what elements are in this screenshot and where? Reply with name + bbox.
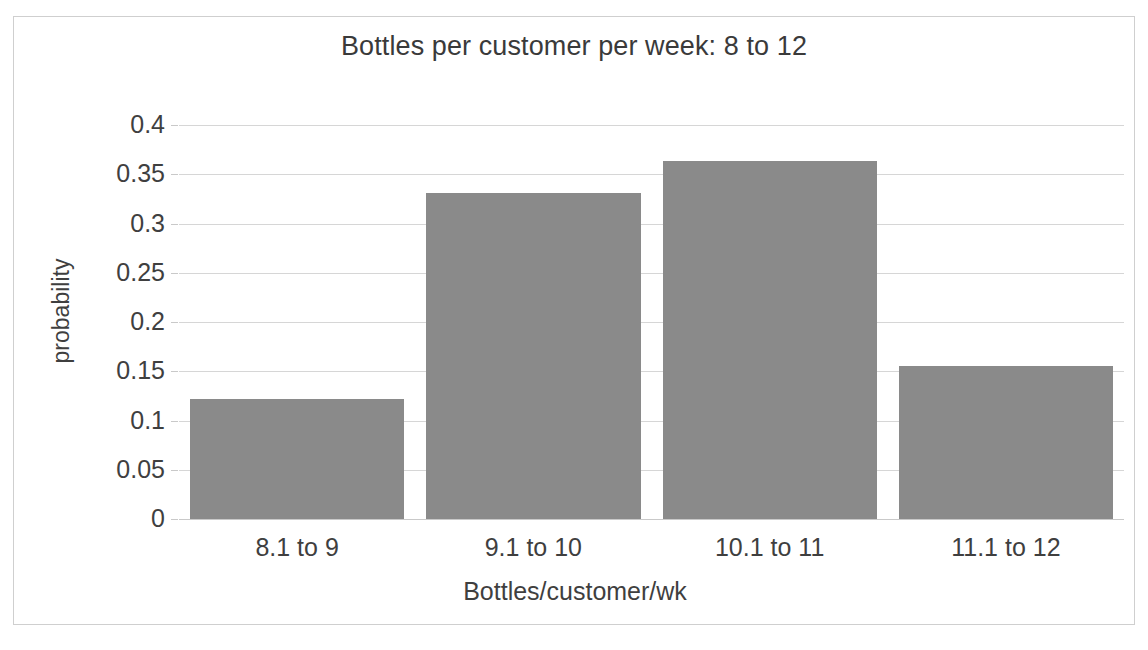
y-tick-mark — [171, 322, 178, 323]
x-tick-label: 11.1 to 12 — [888, 533, 1124, 562]
bar-4 — [899, 366, 1113, 519]
bar-3 — [663, 161, 877, 519]
x-tick-label: 10.1 to 11 — [652, 533, 888, 562]
y-tick-mark — [171, 174, 178, 175]
gridline — [179, 174, 1124, 175]
y-axis-title: probability — [48, 231, 75, 391]
y-tick-label: 0 — [55, 506, 165, 531]
y-tick-mark — [171, 273, 178, 274]
gridline — [179, 322, 1124, 323]
y-tick-label: 0.35 — [55, 161, 165, 186]
y-tick-mark — [171, 371, 178, 372]
plot-area — [179, 125, 1124, 519]
y-tick-label: 0.4 — [55, 112, 165, 137]
bar-2 — [426, 193, 640, 519]
gridline — [179, 125, 1124, 126]
chart-title: Bottles per customer per week: 8 to 12 — [14, 31, 1134, 62]
x-tick-label: 8.1 to 9 — [179, 533, 415, 562]
bar-1 — [190, 399, 404, 519]
gridline — [179, 519, 1124, 520]
gridline — [179, 273, 1124, 274]
y-tick-label: 0.1 — [55, 408, 165, 433]
y-tick-mark — [171, 519, 178, 520]
y-tick-mark — [171, 421, 178, 422]
y-tick-mark — [171, 470, 178, 471]
chart-figure: Bottles per customer per week: 8 to 12 p… — [13, 16, 1135, 625]
y-tick-mark — [171, 125, 178, 126]
x-tick-label: 9.1 to 10 — [415, 533, 651, 562]
gridline — [179, 224, 1124, 225]
y-tick-label: 0.05 — [55, 457, 165, 482]
y-tick-mark — [171, 224, 178, 225]
x-axis-title: Bottles/customer/wk — [14, 577, 1136, 606]
